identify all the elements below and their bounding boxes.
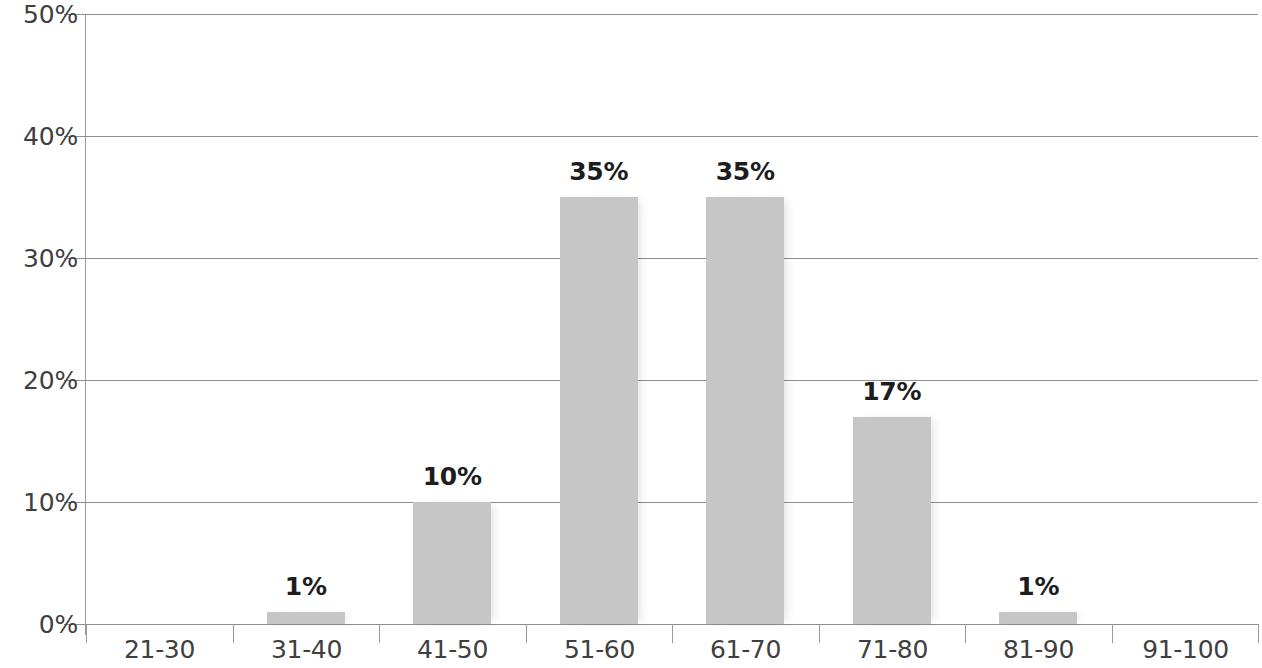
bar	[706, 197, 784, 624]
x-axis-category-label: 91-100	[1112, 634, 1259, 665]
bar-chart: 0%10%20%30%40%50% 1%10%35%35%17%1% 21-30…	[0, 0, 1262, 668]
bar	[267, 612, 345, 624]
x-axis-category-label: 41-50	[379, 634, 526, 665]
y-axis-label: 40%	[23, 124, 78, 149]
y-axis-label: 10%	[23, 490, 78, 515]
plot-area: 1%10%35%35%17%1%	[86, 14, 1258, 624]
bar	[999, 612, 1077, 624]
x-axis-category-label: 61-70	[672, 634, 819, 665]
y-axis-label: 20%	[23, 368, 78, 393]
x-axis-category-label: 21-30	[86, 634, 233, 665]
x-axis-category-label: 71-80	[819, 634, 966, 665]
y-axis-label: 50%	[23, 2, 78, 27]
bar	[853, 417, 931, 624]
x-axis-category-label: 31-40	[233, 634, 380, 665]
bar-value-label: 1%	[237, 574, 375, 599]
bar-value-label: 10%	[383, 464, 521, 489]
bar-value-label: 1%	[969, 574, 1107, 599]
bar-value-label: 17%	[823, 379, 961, 404]
bar	[413, 502, 491, 624]
bar-value-label: 35%	[530, 159, 668, 184]
x-axis-category-label: 81-90	[965, 634, 1112, 665]
x-axis-category-label: 51-60	[526, 634, 673, 665]
y-axis-label: 30%	[23, 246, 78, 271]
bar-value-label: 35%	[676, 159, 814, 184]
y-axis-label: 0%	[39, 612, 78, 637]
bar	[560, 197, 638, 624]
